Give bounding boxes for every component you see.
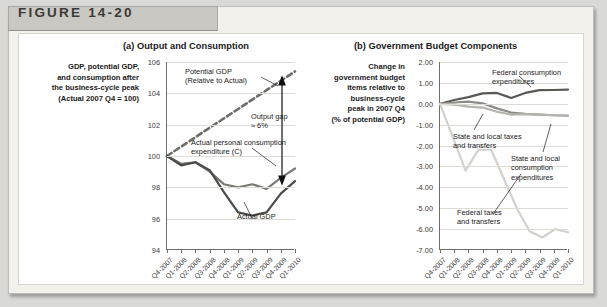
- y-axis-tick-label: -1.00: [399, 120, 433, 129]
- y-axis-tick-label: 0.00: [399, 99, 433, 108]
- y-axis-tick-label: 100: [126, 152, 160, 161]
- y-axis-tick-label: 98: [126, 183, 160, 192]
- y-axis-tick-label: 1.00: [399, 78, 433, 87]
- y-axis-tick-label: 106: [126, 58, 160, 67]
- y-axis-tick-label: -4.00: [399, 183, 433, 192]
- panel-b-axis-caption: Change ingovernment budgetitems relative…: [301, 62, 405, 126]
- y-axis-tick-label: 94: [126, 246, 160, 255]
- y-axis-tick-label: 104: [126, 89, 160, 98]
- y-axis-tick-label: -6.00: [399, 225, 433, 234]
- panel-b-title: (b) Government Budget Components: [354, 41, 517, 51]
- panel-a-axis-caption: GDP, potential GDP,and consumption after…: [19, 62, 139, 104]
- y-axis-tick-label: -2.00: [399, 141, 433, 150]
- y-axis-tick-label: 96: [126, 214, 160, 223]
- y-axis-tick-label: 2.00: [399, 58, 433, 67]
- panel-a-leader-lines: [166, 62, 296, 252]
- panel-b-leader-lines: [439, 62, 569, 252]
- y-axis-tick-label: -5.00: [399, 204, 433, 213]
- panel-a-title: (a) Output and Consumption: [123, 41, 249, 51]
- y-axis-tick-label: -7.00: [399, 246, 433, 255]
- figure-canvas: (a) Output and Consumption GDP, potentia…: [18, 33, 584, 285]
- y-axis-tick-label: 102: [126, 120, 160, 129]
- figure-root: FIGURE 14-20 (a) Output and Consumption …: [0, 0, 607, 307]
- y-axis-tick-label: -3.00: [399, 162, 433, 171]
- figure-number-label: FIGURE 14-20: [18, 5, 134, 20]
